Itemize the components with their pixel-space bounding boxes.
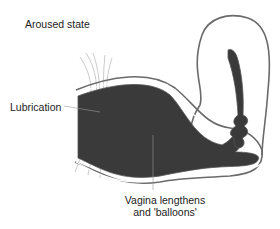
anatomy-illustration bbox=[0, 0, 280, 229]
cervical-canal bbox=[228, 49, 248, 148]
